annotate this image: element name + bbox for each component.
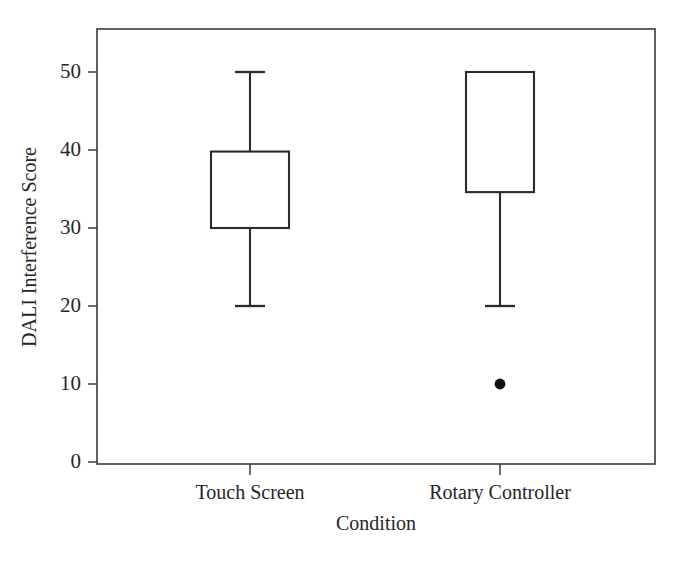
y-tick-label: 20 [60, 293, 81, 317]
y-axis-title: DALI Interference Score [18, 147, 40, 347]
x-tick-label: Rotary Controller [429, 481, 571, 504]
boxplot-figure: 01020304050 Touch ScreenRotary Controlle… [0, 0, 687, 567]
x-tick-label: Touch Screen [195, 481, 304, 503]
figure-background [0, 0, 687, 567]
x-axis-title: Condition [336, 512, 416, 534]
y-tick-label: 0 [71, 449, 82, 473]
y-tick-label: 50 [60, 59, 81, 83]
outlier-point [495, 379, 506, 390]
chart-canvas: 01020304050 Touch ScreenRotary Controlle… [0, 0, 687, 567]
y-tick-label: 40 [60, 137, 81, 161]
y-tick-label: 30 [60, 215, 81, 239]
y-tick-label: 10 [60, 371, 81, 395]
